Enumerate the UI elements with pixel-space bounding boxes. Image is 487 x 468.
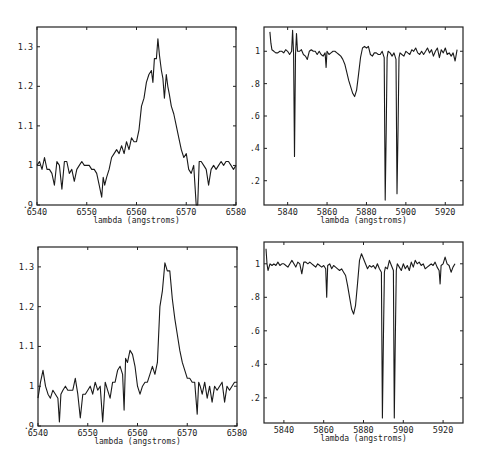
x-axis-label: lambda (angstroms) xyxy=(320,434,407,443)
plot-frame xyxy=(264,242,463,423)
y-tick-label: .8 xyxy=(250,292,260,302)
panel-top-left: 65406550656065706580.911.11.21.3lambda (… xyxy=(18,27,247,225)
y-tick-label: 1.2 xyxy=(19,302,34,312)
x-axis-label: lambda (angstroms) xyxy=(320,216,407,225)
plot-frame xyxy=(38,247,237,426)
x-tick-label: 6580 xyxy=(226,207,246,217)
spectrum-line xyxy=(37,39,236,205)
spectrum-line xyxy=(266,249,455,418)
y-tick-label: .6 xyxy=(250,326,260,336)
panel-bottom-right: 58405860588059005920.2.4.6.81lambda (ang… xyxy=(250,242,463,443)
plot-frame xyxy=(37,27,236,205)
y-tick-label: .8 xyxy=(250,79,260,89)
spectrum-line xyxy=(270,30,457,200)
x-tick-label: 5840 xyxy=(277,207,297,217)
y-tick-label: .4 xyxy=(250,359,260,369)
x-axis-label: lambda (angstroms) xyxy=(93,216,180,225)
y-tick-label: .9 xyxy=(24,421,34,431)
y-tick-label: 1.1 xyxy=(18,121,33,131)
y-tick-label: 1.3 xyxy=(19,262,34,272)
y-tick-label: .2 xyxy=(250,393,260,403)
y-tick-label: .4 xyxy=(250,143,260,153)
x-axis-label: lambda (angstroms) xyxy=(94,437,181,446)
y-tick-label: 1 xyxy=(255,259,260,269)
x-tick-label: 5920 xyxy=(435,207,455,217)
panel-bottom-left: 65406550656065706580.911.11.21.3lambda (… xyxy=(19,247,248,446)
y-tick-label: .2 xyxy=(250,176,260,186)
spectra-figure: 65406550656065706580.911.11.21.3lambda (… xyxy=(0,0,487,468)
y-tick-label: .9 xyxy=(23,200,33,210)
spectrum-line xyxy=(38,263,237,422)
y-tick-label: 1.3 xyxy=(18,42,33,52)
y-tick-label: 1 xyxy=(28,160,33,170)
y-tick-label: .6 xyxy=(250,111,260,121)
y-tick-label: 1.1 xyxy=(19,341,34,351)
y-tick-label: 1 xyxy=(29,381,34,391)
x-tick-label: 6580 xyxy=(227,428,247,438)
y-tick-label: 1 xyxy=(255,46,260,56)
panel-top-right: 58405860588059005920.2.4.6.81lambda (ang… xyxy=(250,27,463,225)
y-tick-label: 1.2 xyxy=(18,81,33,91)
x-tick-label: 5920 xyxy=(433,425,453,435)
x-tick-label: 5840 xyxy=(274,425,294,435)
